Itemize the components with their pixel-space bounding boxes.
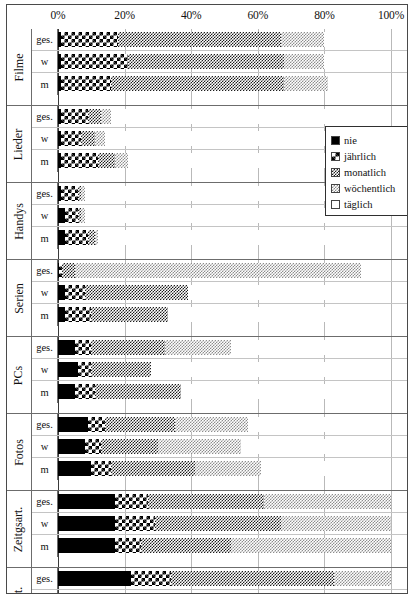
chart-group: Zeitgsart.ges.wm: [7, 491, 408, 568]
bar-segment-jährlich: [135, 593, 178, 594]
chart-group: PCsges.wm: [7, 337, 408, 414]
category-label-text: Zeitsart.: [12, 586, 27, 594]
stacked-bar: [58, 76, 391, 91]
bar-segment-jährlich: [85, 439, 102, 454]
bar-row: m: [32, 73, 408, 95]
bar-row-label: m: [32, 73, 58, 95]
bar-row: w: [32, 590, 408, 594]
bar-row-plot: [58, 73, 408, 95]
bar-row-label: ges.: [32, 491, 58, 512]
legend-swatch-nie: [331, 136, 340, 145]
bar-segment-täglich: [328, 76, 391, 91]
category-label-handys: Handys: [7, 183, 32, 259]
bar-segment-wöchentlich: [95, 131, 105, 146]
bar-segment-monatlich: [141, 538, 231, 553]
stacked-bar: [58, 538, 391, 553]
stacked-bar: [58, 263, 391, 278]
bar-segment-jährlich: [91, 461, 111, 476]
x-tick-label: 60%: [248, 9, 268, 21]
bar-row-label: w: [32, 282, 58, 303]
bar-segment-täglich: [98, 230, 391, 245]
bar-row-plot: [58, 227, 408, 249]
chart-group: Zeitsart.ges.wm: [7, 568, 408, 594]
bar-row: m: [32, 458, 408, 480]
bar-row-label: w: [32, 359, 58, 380]
category-label-text: Filme: [12, 53, 27, 81]
bar-row-plot: [58, 535, 408, 557]
bar-segment-monatlich: [105, 417, 175, 432]
bar-row: m: [32, 227, 408, 249]
bar-segment-nie: [58, 494, 115, 509]
bar-segment-täglich: [361, 263, 391, 278]
bar-segment-wöchentlich: [165, 340, 232, 355]
stacked-bar: [58, 32, 391, 47]
bar-segment-nie: [58, 461, 91, 476]
bar-segment-monatlich: [81, 131, 94, 146]
bar-segment-wöchentlich: [281, 32, 324, 47]
group-rows: ges.wm: [32, 491, 408, 567]
category-label-zeitgsart: Zeitgsart.: [7, 491, 32, 567]
bar-segment-jährlich: [61, 186, 78, 201]
bar-row: ges.: [32, 337, 408, 359]
bar-segment-jährlich: [61, 32, 118, 47]
bar-segment-täglich: [151, 362, 391, 377]
bar-segment-täglich: [111, 109, 391, 124]
chart-group: Fotosges.wm: [7, 414, 408, 491]
bar-row-label: w: [32, 513, 58, 534]
category-label-fotos: Fotos: [7, 414, 32, 490]
bar-row-plot: [58, 381, 408, 403]
category-label-text: PCs: [11, 365, 26, 384]
bar-row-plot: [58, 513, 408, 534]
bar-segment-nie: [58, 593, 135, 594]
legend-item: wöchentlich: [331, 180, 404, 196]
bar-segment-monatlich: [111, 461, 194, 476]
bar-segment-nie: [58, 340, 75, 355]
bar-segment-jährlich: [65, 208, 78, 223]
chart-group: Filmeges.wm: [7, 29, 408, 106]
bar-segment-monatlich: [155, 516, 282, 531]
bar-row: w: [32, 282, 408, 304]
bar-segment-täglich: [248, 417, 391, 432]
group-spacer: [32, 557, 408, 567]
legend-swatch-jährlich: [331, 152, 340, 161]
bar-segment-monatlich: [98, 153, 115, 168]
chart-frame: 0%20%40%60%80%100% Filmeges.wmLiederges.…: [6, 4, 408, 594]
bar-segment-nie: [58, 417, 88, 432]
bar-row-label: w: [32, 590, 58, 594]
bar-segment-wöchentlich: [334, 571, 391, 586]
bar-row-plot: [58, 436, 408, 457]
bar-row: ges.: [32, 260, 408, 282]
x-tick-label: 20%: [114, 9, 134, 21]
bar-row: m: [32, 381, 408, 403]
bar-row: m: [32, 535, 408, 557]
bar-segment-täglich: [324, 54, 391, 69]
bar-segment-wöchentlich: [284, 76, 327, 91]
category-label-text: Serien: [12, 283, 27, 314]
bar-segment-jährlich: [131, 571, 171, 586]
bar-row: ges.: [32, 106, 408, 128]
bar-segment-monatlich: [101, 439, 158, 454]
x-axis-tick-labels: 0%20%40%60%80%100%: [7, 5, 408, 29]
stacked-bar: [58, 593, 391, 594]
bar-segment-wöchentlich: [195, 461, 262, 476]
bar-row-label: w: [32, 51, 58, 72]
bar-row-label: m: [32, 535, 58, 557]
bar-row: ges.: [32, 414, 408, 436]
bar-row-plot: [58, 51, 408, 72]
bar-segment-nie: [58, 571, 131, 586]
stacked-bar: [58, 494, 391, 509]
group-rows: ges.wm: [32, 260, 408, 336]
legend-item: jährlich: [331, 148, 404, 164]
bar-segment-wöchentlich: [75, 263, 360, 278]
bar-segment-monatlich: [85, 285, 188, 300]
bar-segment-jährlich: [115, 538, 142, 553]
x-tick-label: 80%: [314, 9, 334, 21]
bar-row-label: m: [32, 150, 58, 172]
bar-segment-jährlich: [61, 131, 81, 146]
bar-segment-täglich: [231, 340, 391, 355]
bar-segment-monatlich: [91, 307, 168, 322]
bar-row: w: [32, 436, 408, 458]
category-label-lieder: Lieder: [7, 106, 32, 182]
bar-segment-jährlich: [78, 362, 91, 377]
chart-legend: niejährlichmonatlichwöchentlichtäglich: [325, 126, 408, 216]
